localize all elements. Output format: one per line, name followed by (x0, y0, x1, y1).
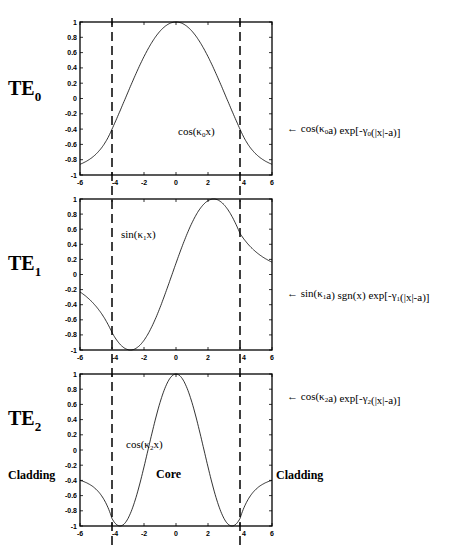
y-tick-label: 0.4 (67, 64, 77, 71)
y-tick-label: 0.2 (67, 256, 77, 263)
field-curve (80, 374, 272, 526)
y-tick-label: 0.2 (67, 80, 77, 87)
y-tick-label: -0.2 (65, 286, 77, 293)
x-tick-label: 2 (206, 179, 210, 186)
y-tick-label: -0.4 (65, 477, 77, 484)
x-tick-label: -4 (112, 530, 118, 537)
x-tick-label: -6 (77, 179, 83, 186)
field-curve (80, 199, 272, 350)
x-tick-label: 0 (174, 530, 178, 537)
chart-panel-0: 10.80.60.40.20-0.2-0.4-0.6-0.8-1-6-4-202… (8, 19, 400, 187)
core-field-label: sin(κ1x) (121, 228, 156, 242)
mode-label: TE0 (8, 77, 41, 104)
y-tick-label: -0.6 (65, 316, 77, 323)
plot-frame (80, 22, 272, 175)
x-tick-label: 4 (242, 530, 246, 537)
y-tick-label: 1 (73, 196, 77, 203)
core-field-label: cos(κ2x) (126, 438, 163, 452)
y-tick-label: -1 (71, 523, 77, 530)
x-tick-label: 4 (242, 354, 246, 361)
x-tick-label: -4 (112, 179, 118, 186)
y-tick-label: 1 (73, 371, 77, 378)
y-tick-label: 0.6 (67, 49, 77, 56)
y-tick-label: 0 (73, 447, 77, 454)
x-tick-label: -4 (112, 354, 118, 361)
y-tick-label: 0.2 (67, 431, 77, 438)
x-tick-label: -6 (77, 530, 83, 537)
y-tick-label: -0.8 (65, 331, 77, 338)
y-tick-label: 0.8 (67, 211, 77, 218)
y-tick-label: -0.4 (65, 126, 77, 133)
cladding-left-label: Cladding (8, 468, 55, 482)
y-tick-label: 0.6 (67, 401, 77, 408)
x-tick-label: 4 (242, 179, 246, 186)
mode-profile-figure: 10.80.60.40.20-0.2-0.4-0.6-0.8-1-6-4-202… (0, 0, 456, 555)
mode-label: TE2 (8, 407, 41, 434)
plot-frame (80, 199, 272, 350)
x-tick-label: 2 (206, 354, 210, 361)
y-tick-label: -0.2 (65, 110, 77, 117)
y-tick-label: -1 (71, 172, 77, 179)
cladding-field-label: ← cos(κ0a) exp[-γ0(|x|-a)] (287, 122, 400, 139)
y-tick-label: -0.4 (65, 301, 77, 308)
x-tick-label: 6 (270, 354, 274, 361)
x-tick-label: 6 (270, 179, 274, 186)
y-tick-label: 0.4 (67, 416, 77, 423)
x-tick-label: -2 (141, 530, 147, 537)
x-tick-label: -2 (141, 354, 147, 361)
y-tick-label: -0.6 (65, 492, 77, 499)
chart-panel-1: 10.80.60.40.20-0.2-0.4-0.6-0.8-1-6-4-202… (8, 196, 429, 362)
y-tick-label: 0.6 (67, 226, 77, 233)
y-tick-label: 0 (73, 271, 77, 278)
x-tick-label: 2 (206, 530, 210, 537)
y-tick-label: 0.8 (67, 34, 77, 41)
cladding-right-label: Cladding (276, 468, 323, 482)
x-tick-label: 0 (174, 354, 178, 361)
chart-panel-2: 10.80.60.40.20-0.2-0.4-0.6-0.8-1-6-4-202… (8, 371, 400, 538)
y-tick-label: 0.4 (67, 241, 77, 248)
cladding-field-label: ← sin(κ1a) sgn(x) exp[-γ1(|x|-a)] (287, 287, 429, 304)
mode-label: TE1 (8, 252, 41, 279)
y-tick-label: -0.2 (65, 462, 77, 469)
y-tick-label: 0 (73, 95, 77, 102)
y-tick-label: 0.8 (67, 386, 77, 393)
cladding-field-label: ← cos(κ2a) exp[-γ2(|x|-a)] (287, 390, 400, 407)
x-tick-label: 0 (174, 179, 178, 186)
core-label: Core (156, 467, 182, 481)
y-tick-label: -0.6 (65, 141, 77, 148)
y-tick-label: -1 (71, 347, 77, 354)
x-tick-label: -6 (77, 354, 83, 361)
x-tick-label: 6 (270, 530, 274, 537)
y-tick-label: -0.8 (65, 507, 77, 514)
y-tick-label: 1 (73, 19, 77, 26)
x-tick-label: -2 (141, 179, 147, 186)
y-tick-label: -0.8 (65, 156, 77, 163)
plot-frame (80, 374, 272, 526)
field-curve (80, 22, 272, 164)
core-field-label: cos(κ0x) (178, 125, 215, 139)
